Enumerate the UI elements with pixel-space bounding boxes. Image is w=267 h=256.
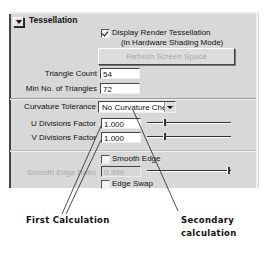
secondary-calculation-annotation-line1: Secondary: [181, 215, 234, 225]
secondary-calculation-annotation-line2: calculation: [181, 228, 237, 238]
first-calculation-annotation: First Calculation: [26, 215, 110, 225]
